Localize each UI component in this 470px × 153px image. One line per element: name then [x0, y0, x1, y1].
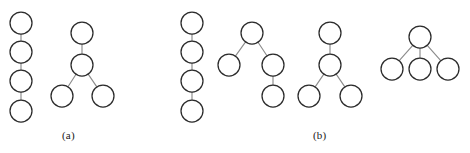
tree-node: [340, 85, 362, 107]
tree-node: [10, 100, 32, 122]
tree-node: [437, 58, 459, 80]
tree-edge: [68, 74, 76, 87]
tree-node: [181, 41, 203, 63]
tree-node: [181, 12, 203, 34]
tree-edge: [235, 42, 245, 56]
tree-edge: [399, 45, 413, 60]
tree-edge: [88, 74, 97, 87]
tree-node: [241, 22, 263, 44]
tree-node: [51, 85, 73, 107]
tree-node: [319, 54, 341, 76]
tree-edge: [427, 45, 441, 60]
tree-node: [218, 54, 240, 76]
tree-node: [10, 70, 32, 92]
tree-node: [181, 70, 203, 92]
tree-node: [319, 22, 341, 44]
panel-label-a: (a): [62, 129, 75, 141]
tree-node: [10, 12, 32, 34]
tree-edge: [336, 74, 345, 87]
tree-node: [181, 100, 203, 122]
tree-node: [92, 85, 114, 107]
tree-node: [10, 41, 32, 63]
tree-edge: [258, 42, 267, 56]
tree-node: [262, 85, 284, 107]
tree-node: [409, 58, 431, 80]
panel-label-b: (b): [313, 129, 326, 141]
tree-figure: (a) (b): [0, 0, 470, 153]
tree-edge: [315, 74, 324, 87]
tree-node: [262, 54, 284, 76]
tree-node: [71, 54, 93, 76]
tree-node: [381, 58, 403, 80]
tree-node: [298, 85, 320, 107]
nodes-layer: [10, 12, 459, 122]
tree-node: [409, 26, 431, 48]
tree-node: [71, 22, 93, 44]
